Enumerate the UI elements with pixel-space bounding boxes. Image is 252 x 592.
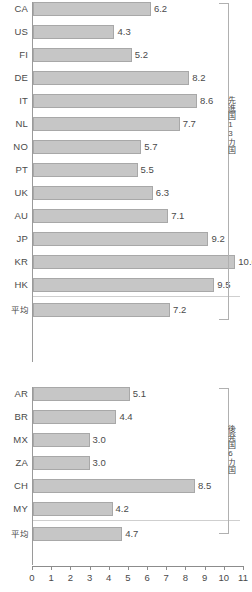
bar-advanced-no-value: 5.7: [144, 140, 157, 154]
x-tick-8: [185, 566, 186, 570]
bar-advanced-us-label: US: [0, 25, 28, 39]
bar-developing-za-bar: [33, 456, 90, 470]
bar-developing-ar-bar: [33, 387, 130, 401]
bar-developing-ch-value: 8.5: [198, 479, 211, 493]
bar-advanced-us-value: 4.3: [117, 25, 130, 39]
bar-advanced-au-bar: [33, 209, 168, 223]
chart-group-developing-countries: AR5.1BR4.4MX3.0ZA3.0CH8.5MY4.2平均4.7 後発国6…: [0, 385, 252, 565]
bar-advanced-ca-value: 6.2: [154, 2, 167, 16]
bar-advanced-average-value: 7.2: [173, 303, 186, 317]
x-tick-label-9: 9: [197, 572, 213, 583]
bar-advanced-ca-bar: [33, 2, 151, 16]
x-tick-6: [147, 566, 148, 570]
bar-developing-br-value: 4.4: [119, 410, 132, 424]
x-tick-label-6: 6: [139, 572, 155, 583]
bar-developing-my-bar: [33, 502, 113, 516]
plot-area-advanced: CA6.2US4.3FI5.2DE8.2IT8.6NL7.7NO5.7PT5.5…: [0, 0, 252, 365]
bar-developing-my-label: MY: [0, 502, 28, 516]
bar-advanced-hk-bar: [33, 278, 214, 292]
bar-advanced-au-value: 7.1: [171, 209, 184, 223]
bar-advanced-nl-label: NL: [0, 117, 28, 131]
x-tick-0: [32, 566, 33, 570]
x-axis: 01234567891011: [0, 566, 252, 592]
bracket-advanced: [219, 3, 229, 320]
bar-advanced-fi-bar: [33, 48, 132, 62]
bar-developing-za-label: ZA: [0, 456, 28, 470]
x-tick-9: [205, 566, 206, 570]
x-tick-label-4: 4: [101, 572, 117, 583]
bar-advanced-it-bar: [33, 94, 197, 108]
x-tick-label-10: 10: [216, 572, 232, 583]
x-tick-2: [70, 566, 71, 570]
bar-advanced-average-bar: [33, 303, 170, 317]
bar-developing-ch-bar: [33, 479, 195, 493]
bar-developing-za-value: 3.0: [93, 456, 106, 470]
bar-developing-mx-label: MX: [0, 433, 28, 447]
bracket-label-advanced: 先進国13カ国: [226, 96, 234, 154]
x-tick-5: [128, 566, 129, 570]
bar-advanced-nl-bar: [33, 117, 180, 131]
plot-area-developing: AR5.1BR4.4MX3.0ZA3.0CH8.5MY4.2平均4.7: [0, 385, 252, 565]
bar-developing-ar-label: AR: [0, 387, 28, 401]
bar-developing-ch-label: CH: [0, 479, 28, 493]
bar-advanced-de-label: DE: [0, 71, 28, 85]
x-tick-4: [109, 566, 110, 570]
bar-advanced-pt-label: PT: [0, 163, 28, 177]
bar-developing-mx-bar: [33, 433, 90, 447]
x-tick-label-3: 3: [82, 572, 98, 583]
bar-advanced-it-label: IT: [0, 94, 28, 108]
x-tick-3: [90, 566, 91, 570]
bar-advanced-uk-bar: [33, 186, 153, 200]
average-separator-developing: [33, 520, 240, 521]
x-tick-label-8: 8: [177, 572, 193, 583]
bar-advanced-jp-bar: [33, 232, 208, 246]
bar-advanced-pt-value: 5.5: [141, 163, 154, 177]
x-tick-label-7: 7: [158, 572, 174, 583]
bar-developing-average-bar: [33, 527, 122, 541]
x-tick-label-1: 1: [43, 572, 59, 583]
bar-developing-mx-value: 3.0: [93, 433, 106, 447]
bar-chart: CA6.2US4.3FI5.2DE8.2IT8.6NL7.7NO5.7PT5.5…: [0, 0, 252, 592]
x-tick-7: [166, 566, 167, 570]
bar-advanced-nl-value: 7.7: [183, 117, 196, 131]
x-axis-line: [32, 566, 244, 567]
x-tick-label-11: 11: [235, 572, 251, 583]
bar-advanced-de-value: 8.2: [192, 71, 205, 85]
average-separator-advanced: [33, 296, 240, 297]
bar-advanced-jp-label: JP: [0, 232, 28, 246]
chart-group-advanced-countries: CA6.2US4.3FI5.2DE8.2IT8.6NL7.7NO5.7PT5.5…: [0, 0, 252, 365]
x-tick-label-0: 0: [24, 572, 40, 583]
bar-advanced-it-value: 8.6: [200, 94, 213, 108]
bar-advanced-us-bar: [33, 25, 114, 39]
y-axis-baseline-advanced: [32, 2, 33, 362]
bar-developing-average-value: 4.7: [125, 527, 138, 541]
bar-developing-br-label: BR: [0, 410, 28, 424]
bar-advanced-fi-value: 5.2: [135, 48, 148, 62]
y-axis-baseline-developing: [32, 387, 33, 565]
x-tick-10: [224, 566, 225, 570]
x-tick-label-5: 5: [120, 572, 136, 583]
bar-advanced-uk-value: 6.3: [156, 186, 169, 200]
bar-advanced-fi-label: FI: [0, 48, 28, 62]
bar-advanced-pt-bar: [33, 163, 138, 177]
bar-advanced-au-label: AU: [0, 209, 28, 223]
bar-advanced-no-label: NO: [0, 140, 28, 154]
x-tick-1: [51, 566, 52, 570]
x-tick-label-2: 2: [62, 572, 78, 583]
bar-developing-br-bar: [33, 410, 116, 424]
bar-developing-average-label: 平均: [0, 527, 28, 541]
bracket-label-developing: 後発国6カ国: [226, 425, 234, 474]
bar-advanced-ca-label: CA: [0, 2, 28, 16]
bar-advanced-kr-label: KR: [0, 255, 28, 269]
bar-advanced-uk-label: UK: [0, 186, 28, 200]
bar-developing-my-value: 4.2: [116, 502, 129, 516]
bar-advanced-hk-label: HK: [0, 278, 28, 292]
x-tick-11: [243, 566, 244, 570]
bar-advanced-de-bar: [33, 71, 189, 85]
bar-advanced-average-label: 平均: [0, 303, 28, 317]
bar-developing-ar-value: 5.1: [133, 387, 146, 401]
bar-advanced-kr-value: 10.6: [238, 255, 252, 269]
bar-advanced-kr-bar: [33, 255, 235, 269]
bar-advanced-no-bar: [33, 140, 141, 154]
